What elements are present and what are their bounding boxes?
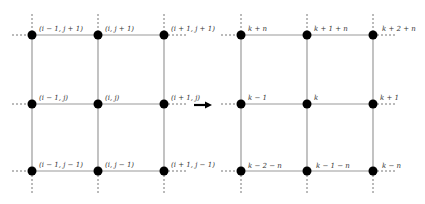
- node: [303, 31, 312, 40]
- node-label: (i, j): [105, 94, 120, 102]
- node: [237, 167, 246, 176]
- node-label: k + 1 + n: [314, 25, 348, 33]
- node: [160, 167, 169, 176]
- node-label: (i, j + 1): [105, 25, 134, 33]
- node: [28, 31, 37, 40]
- node: [237, 100, 246, 109]
- node-label: k − 1: [248, 94, 267, 102]
- node: [94, 31, 103, 40]
- node-label: k: [314, 94, 318, 102]
- node: [160, 100, 169, 109]
- node: [160, 31, 169, 40]
- node-label: (i + 1, j + 1): [171, 25, 215, 33]
- node-label: k − n: [382, 162, 402, 170]
- node: [237, 31, 246, 40]
- right-grid: k + n k + 1 + n k + 2 + n k − 1 k k + 1 …: [221, 14, 416, 194]
- node-label: (i + 1, j − 1): [171, 161, 215, 169]
- node-label: (i, j − 1): [105, 161, 134, 169]
- node: [94, 100, 103, 109]
- node-label: k − 2 − n: [248, 162, 282, 170]
- node-label: (i + 1, j): [171, 94, 200, 102]
- node-label: (i − 1, j): [39, 94, 68, 102]
- node: [369, 100, 378, 109]
- node: [303, 100, 312, 109]
- node: [28, 167, 37, 176]
- node-label: (i − 1, j + 1): [39, 25, 83, 33]
- node-label: k + 2 + n: [382, 25, 416, 33]
- node-label: k − 1 − n: [316, 162, 350, 170]
- node: [369, 31, 378, 40]
- node: [303, 167, 312, 176]
- node: [28, 100, 37, 109]
- node-label: (i − 1, j − 1): [39, 161, 83, 169]
- left-grid: (i − 1, j + 1) (i, j + 1) (i + 1, j + 1)…: [12, 14, 215, 194]
- node-label: k + 1: [380, 94, 399, 102]
- grid-mapping-diagram: (i − 1, j + 1) (i, j + 1) (i + 1, j + 1)…: [0, 0, 425, 204]
- mapping-arrow-icon: [194, 102, 212, 109]
- node-label: k + n: [248, 25, 268, 33]
- node: [94, 167, 103, 176]
- node: [369, 167, 378, 176]
